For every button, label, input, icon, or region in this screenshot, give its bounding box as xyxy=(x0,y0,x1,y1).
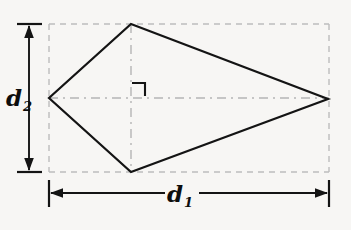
label-d1: d1 xyxy=(167,182,192,205)
dimension-d1-arrowhead-left xyxy=(50,188,63,198)
label-d2-subscript: 2 xyxy=(23,99,32,114)
right-angle-marker xyxy=(132,83,145,96)
dimension-d2-arrowhead-down xyxy=(24,158,34,171)
label-d1-base: d xyxy=(167,180,183,207)
label-d2-base: d xyxy=(6,84,22,111)
dimension-d2-arrowhead-up xyxy=(24,25,34,38)
label-d2: d2 xyxy=(6,86,31,109)
label-d1-subscript: 1 xyxy=(184,195,193,210)
kite-diagram: d2 d1 xyxy=(0,0,351,230)
dimension-d1-arrowhead-right xyxy=(315,188,328,198)
